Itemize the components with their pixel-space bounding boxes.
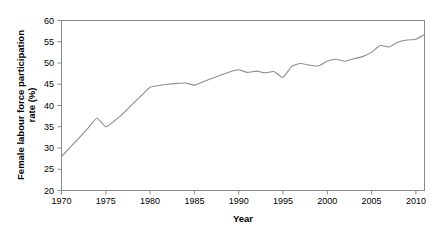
x-tick-label-1990: 1990 [229, 196, 249, 206]
y-axis-title-line2: rate (%) [26, 88, 37, 123]
line-chart: 60 55 50 45 40 35 30 25 20 1970 1975 19 [0, 0, 441, 230]
y-tick-label-55: 55 [44, 37, 54, 47]
x-axis-title: Year [233, 213, 253, 224]
x-tick-label-2010: 2010 [406, 196, 426, 206]
x-tick-label-2005: 2005 [362, 196, 382, 206]
x-axis-tick-labels: 1970 1975 1980 1985 1990 1995 2000 2005 … [51, 196, 425, 206]
x-tick-label-1995: 1995 [273, 196, 293, 206]
y-axis-title-line1: Female labour force participation [15, 30, 26, 180]
y-axis-ticks [58, 21, 62, 191]
x-tick-label-1980: 1980 [140, 196, 160, 206]
y-tick-label-50: 50 [44, 58, 54, 68]
x-tick-label-1975: 1975 [96, 196, 116, 206]
plot-frame [62, 21, 425, 191]
y-tick-label-25: 25 [44, 164, 54, 174]
y-axis-tick-labels: 60 55 50 45 40 35 30 25 20 [44, 16, 54, 196]
chart-figure: 60 55 50 45 40 35 30 25 20 1970 1975 19 [0, 0, 441, 230]
data-series-line [62, 35, 425, 157]
y-tick-label-30: 30 [44, 143, 54, 153]
x-tick-label-1970: 1970 [51, 196, 71, 206]
x-tick-label-2000: 2000 [317, 196, 337, 206]
y-tick-label-45: 45 [44, 79, 54, 89]
y-tick-label-20: 20 [44, 186, 54, 196]
y-tick-label-40: 40 [44, 101, 54, 111]
x-axis-ticks [62, 191, 416, 195]
y-tick-label-35: 35 [44, 122, 54, 132]
y-tick-label-60: 60 [44, 16, 54, 26]
x-tick-label-1985: 1985 [184, 196, 204, 206]
